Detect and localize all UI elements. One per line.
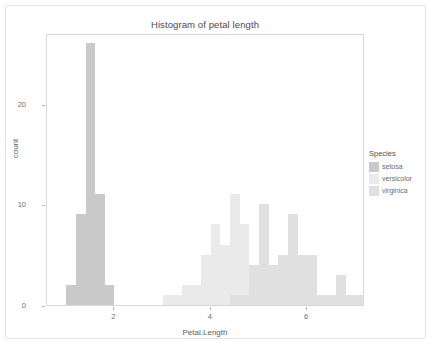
histogram-bar	[201, 255, 211, 305]
y-tick-label: 10	[18, 200, 26, 209]
legend-swatch-icon	[369, 186, 379, 196]
y-tick-label: 20	[18, 100, 26, 109]
x-tick-label: 2	[111, 312, 115, 321]
histogram-bar	[278, 255, 288, 305]
histogram-bar	[182, 285, 192, 305]
page-title: Histogram of petal length	[46, 19, 364, 30]
bottom-caption	[0, 344, 432, 349]
legend-item-label: setosa	[382, 163, 403, 170]
legend-swatch-icon	[369, 162, 379, 172]
histogram-bar	[211, 224, 221, 305]
histogram-bar	[269, 265, 279, 305]
histogram-bar	[317, 295, 327, 305]
histogram-bar	[288, 214, 298, 305]
histogram-bars	[47, 35, 363, 305]
histogram-bar	[230, 295, 240, 305]
y-tick-mark	[42, 105, 45, 106]
y-tick-label: 0	[22, 301, 26, 310]
legend-item: setosa	[369, 161, 425, 172]
legend-item: versicolor	[369, 173, 425, 184]
chart-card: Histogram of petal length 01020 246 coun…	[5, 5, 426, 339]
histogram-bar	[95, 194, 105, 305]
histogram-bar	[192, 285, 202, 305]
plot-panel	[46, 34, 364, 306]
legend-items: setosaversicolorvirginica	[369, 161, 425, 196]
legend-item: virginica	[369, 185, 425, 196]
histogram-bar	[346, 295, 356, 305]
histogram-bar	[259, 204, 269, 305]
x-axis-label: Petal.Length	[46, 328, 364, 337]
y-axis-label: count	[11, 139, 20, 159]
legend-title: Species	[369, 149, 425, 158]
histogram-bar	[66, 285, 76, 305]
histogram-bar	[240, 224, 250, 305]
histogram-bar	[240, 295, 250, 305]
x-tick-label: 4	[208, 312, 212, 321]
histogram-bar	[220, 245, 230, 305]
histogram-bar	[105, 285, 115, 305]
histogram-bar	[172, 295, 182, 305]
histogram-bar	[230, 194, 240, 305]
histogram-bar	[355, 295, 364, 305]
histogram-bar	[326, 295, 336, 305]
x-tick-mark	[306, 307, 307, 310]
histogram-bar	[307, 255, 317, 305]
histogram-bar	[298, 255, 308, 305]
legend-item-label: virginica	[382, 187, 408, 194]
legend-swatch-icon	[369, 174, 379, 184]
x-tick-label: 6	[304, 312, 308, 321]
legend: Species setosaversicolorvirginica	[369, 149, 425, 197]
histogram-bar	[86, 43, 96, 305]
x-tick-mark	[210, 307, 211, 310]
histogram-bar	[336, 275, 346, 305]
y-tick-mark	[42, 205, 45, 206]
x-tick-mark	[113, 307, 114, 310]
y-tick-mark	[42, 306, 45, 307]
histogram-bar	[163, 295, 173, 305]
legend-item-label: versicolor	[382, 175, 412, 182]
histogram-bar	[76, 214, 86, 305]
histogram-bar	[249, 265, 259, 305]
